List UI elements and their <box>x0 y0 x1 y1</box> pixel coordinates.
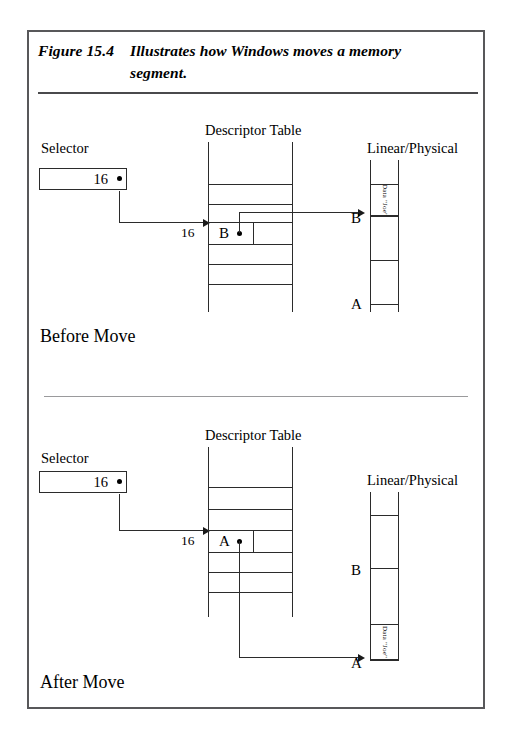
memory-divider-after <box>370 515 399 516</box>
memory-data-block-before: Data "Joe" <box>370 184 399 216</box>
figure-frame: Figure 15.4Illustrates how Windows moves… <box>27 30 485 709</box>
descriptor-table-title-after: Descriptor Table <box>205 427 302 444</box>
selector-connector-horizontal-before <box>119 222 207 223</box>
descriptor-row-line-before <box>208 184 293 185</box>
selector-offset-label-after: 16 <box>181 533 195 549</box>
descriptor-table-left-rail-before <box>208 142 209 312</box>
panel-separator <box>44 396 468 397</box>
descriptor-row-line-after <box>208 530 293 531</box>
selector-pointer-dot-after <box>117 479 122 484</box>
memory-marker-a-after: A <box>351 655 362 672</box>
selector-connector-horizontal-after <box>119 530 207 531</box>
memory-divider-before <box>370 260 399 261</box>
selector-value-before: 16 <box>94 171 109 188</box>
memory-divider-before <box>370 216 399 217</box>
panel-before-move: Selector 16 16 Descriptor Table B <box>29 32 487 372</box>
memory-marker-b-after: B <box>351 562 361 579</box>
descriptor-row-line-after <box>208 572 293 573</box>
selector-connector-vertical-before <box>119 191 120 223</box>
descriptor-connector-horizontal-after <box>239 657 362 658</box>
memory-divider-before <box>370 304 399 305</box>
selector-value-after: 16 <box>94 474 109 491</box>
panel-state-label-after: After Move <box>40 672 124 693</box>
memory-divider-after <box>370 660 399 661</box>
descriptor-cell-divider-before <box>253 222 254 244</box>
memory-title-before: Linear/Physical <box>367 140 458 157</box>
memory-divider-after <box>370 568 399 569</box>
memory-data-block-after: Data "Joe" <box>370 624 399 660</box>
descriptor-row-line-before <box>208 244 293 245</box>
panel-state-label-before: Before Move <box>40 326 135 347</box>
descriptor-table-title-before: Descriptor Table <box>205 122 302 139</box>
selector-connector-vertical-after <box>119 494 120 531</box>
selector-box-after[interactable]: 16 <box>39 471 127 493</box>
descriptor-table-right-rail-before <box>292 142 293 312</box>
descriptor-row-line-after <box>208 487 293 488</box>
descriptor-connector-vertical-before <box>239 212 240 233</box>
descriptor-row-line-after <box>208 552 293 553</box>
descriptor-connector-vertical-after <box>239 541 240 658</box>
selector-title-after: Selector <box>41 450 89 467</box>
memory-data-block-label-before: Data "Joe" <box>381 184 389 216</box>
memory-left-rail-before <box>370 160 371 312</box>
memory-marker-b-before: B <box>351 210 361 227</box>
selector-box-before[interactable]: 16 <box>39 168 127 190</box>
descriptor-row-line-after <box>208 592 293 593</box>
selector-pointer-dot-before <box>117 176 122 181</box>
memory-marker-a-before: A <box>351 296 362 313</box>
descriptor-row-line-after <box>208 509 293 510</box>
descriptor-row-line-before <box>208 204 293 205</box>
descriptor-row-letter-after: A <box>219 533 230 550</box>
descriptor-connector-horizontal-before <box>239 212 362 213</box>
memory-data-block-label-after: Data "Joe" <box>381 626 389 658</box>
selector-offset-label-before: 16 <box>181 225 195 241</box>
descriptor-row-line-before <box>208 284 293 285</box>
descriptor-row-line-before <box>208 264 293 265</box>
descriptor-row-line-before <box>208 222 293 223</box>
descriptor-row-letter-before: B <box>219 225 229 242</box>
descriptor-cell-divider-after <box>253 530 254 552</box>
panel-after-move: Selector 16 16 Descriptor Table A <box>29 372 487 711</box>
memory-right-rail-before <box>398 160 399 312</box>
selector-title-before: Selector <box>41 140 89 157</box>
memory-title-after: Linear/Physical <box>367 472 458 489</box>
